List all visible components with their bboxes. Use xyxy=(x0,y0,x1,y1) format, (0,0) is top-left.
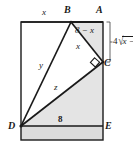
point-label-e: E xyxy=(105,121,112,131)
segment-label-ba: 8 − x xyxy=(75,26,94,35)
measure-bracket xyxy=(107,22,111,62)
segment-label-bd-y: y xyxy=(39,61,43,70)
point-label-a: A xyxy=(96,5,103,15)
geometry-diagram-svg xyxy=(0,0,133,144)
bracket-radical-label: 4√x − xyxy=(113,36,133,46)
geometry-figure: B A C D E x 8 − x x y z 8 4√x − xyxy=(0,0,133,144)
point-label-b: B xyxy=(64,5,71,15)
vertex-dot-b xyxy=(70,21,73,24)
vertex-dot-d xyxy=(19,124,22,127)
radicand-text: x − xyxy=(122,36,133,46)
point-label-d: D xyxy=(8,121,15,131)
segment-label-dc-z: z xyxy=(54,83,58,92)
shaded-bottom-strip xyxy=(21,126,103,140)
segment-label-de-8: 8 xyxy=(58,115,63,124)
segment-label-bc: x xyxy=(76,42,80,51)
segment-label-top-left-x: x xyxy=(42,8,46,17)
point-label-c: C xyxy=(104,58,111,68)
